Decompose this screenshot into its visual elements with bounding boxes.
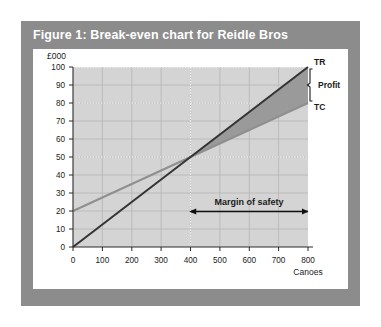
y-axis-ticks	[69, 67, 73, 247]
x-tick-label-700: 700	[272, 256, 286, 265]
x-tick-label-0: 0	[71, 256, 76, 265]
x-tick-label-500: 500	[213, 256, 227, 265]
x-tick-label-300: 300	[154, 256, 168, 265]
profit-brace-icon	[308, 69, 313, 101]
y-tick-label-50: 50	[56, 153, 66, 162]
x-axis-ticks	[73, 247, 308, 251]
profit-label: Profit	[318, 80, 340, 90]
tr-series-label: TR	[314, 57, 325, 67]
figure-frame: Figure 1: Break-even chart for Reidle Br…	[21, 21, 360, 306]
y-tick-label-90: 90	[56, 81, 66, 90]
x-tick-label-200: 200	[125, 256, 139, 265]
y-tick-label-20: 20	[56, 207, 66, 216]
y-tick-label-30: 30	[56, 189, 66, 198]
margin-of-safety-label: Margin of safety	[214, 197, 283, 207]
y-tick-label-60: 60	[56, 135, 66, 144]
y-axis-unit-label: £000	[47, 51, 66, 61]
tc-series-label: TC	[314, 102, 325, 112]
x-axis-title: Canoes	[293, 267, 322, 277]
x-tick-label-600: 600	[242, 256, 256, 265]
x-tick-label-400: 400	[184, 256, 198, 265]
y-tick-label-40: 40	[56, 171, 66, 180]
x-tick-label-800: 800	[301, 256, 315, 265]
y-tick-label-100: 100	[51, 63, 65, 72]
y-tick-label-70: 70	[56, 117, 66, 126]
break-even-chart: £000 100 90 80 70 60 50 40 30 20 10 0 0 …	[33, 49, 348, 289]
chart-panel: £000 100 90 80 70 60 50 40 30 20 10 0 0 …	[33, 49, 348, 289]
figure-title: Figure 1: Break-even chart for Reidle Br…	[33, 28, 288, 42]
y-tick-label-10: 10	[56, 225, 66, 234]
y-tick-label-0: 0	[60, 243, 65, 252]
x-tick-label-100: 100	[96, 256, 110, 265]
y-tick-label-80: 80	[56, 99, 66, 108]
